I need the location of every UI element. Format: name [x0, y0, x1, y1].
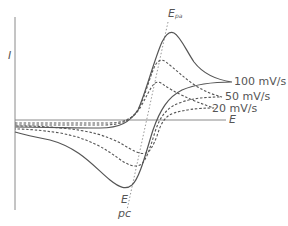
epa-label: Epa	[168, 8, 182, 19]
legend-100mvs: 100 mV/s	[234, 76, 286, 87]
y-axis-label: I	[8, 50, 11, 61]
x-axis-label: E	[229, 114, 236, 125]
curve-50mvs	[15, 60, 222, 166]
legend-20mvs: 20 mV/s	[212, 103, 257, 114]
curve-20mvs	[15, 82, 214, 153]
epa-main: E	[168, 7, 175, 20]
legend-50mvs: 50 mV/s	[225, 91, 270, 102]
epa-subscript: pa	[175, 12, 183, 19]
curve-100mvs	[15, 32, 232, 187]
epc-main: E	[121, 194, 128, 205]
epc-subscript: pc	[118, 208, 131, 219]
